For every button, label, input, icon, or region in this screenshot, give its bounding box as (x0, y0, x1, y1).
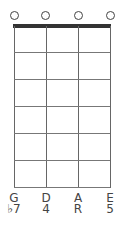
interval-label: R (70, 203, 86, 215)
fret-line-3 (14, 106, 110, 107)
open-string-marker-d (41, 11, 50, 20)
open-string-marker-e (106, 11, 115, 20)
interval-label: 4 (38, 203, 54, 215)
fret-line-1 (14, 52, 110, 53)
fret-line-5 (14, 160, 110, 161)
fret-line-2 (14, 79, 110, 80)
interval-label: 5 (102, 203, 118, 215)
chord-diagram: G D A E ♭7 4 R 5 (0, 0, 127, 230)
string-e (110, 26, 111, 188)
open-string-marker-a (74, 11, 83, 20)
interval-label: ♭7 (6, 203, 22, 215)
open-string-marker-g (10, 11, 19, 20)
fret-line-6 (14, 187, 110, 188)
fret-line-4 (14, 133, 110, 134)
nut (13, 24, 111, 28)
